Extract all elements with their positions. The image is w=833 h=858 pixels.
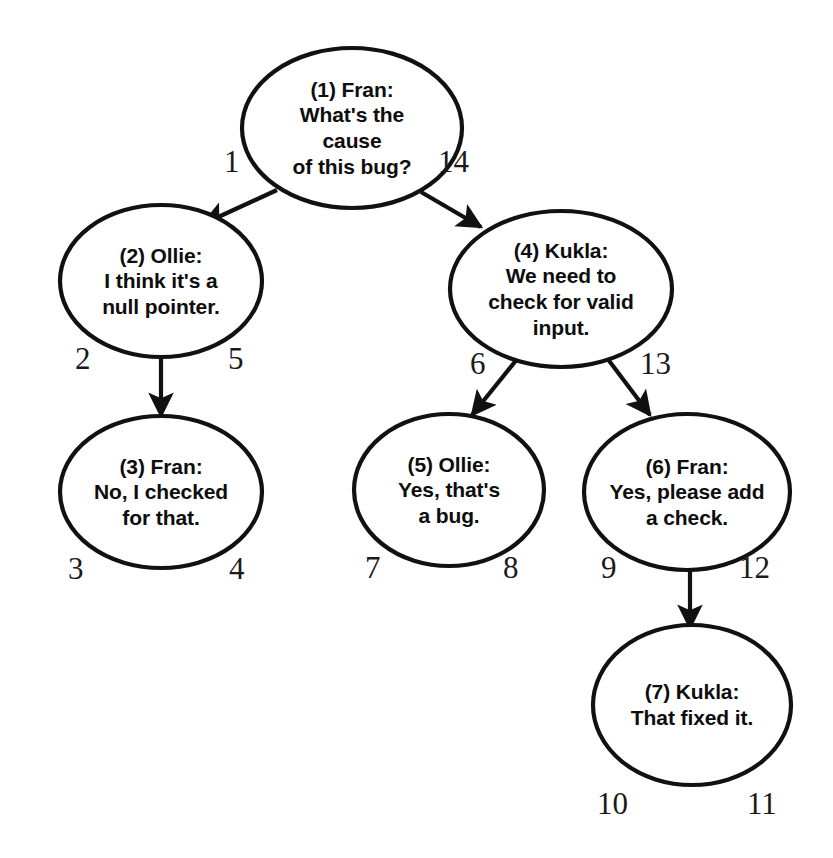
node-ellipse-n1[interactable] (242, 48, 462, 208)
edge-number-4-lbl-4: 4 (229, 553, 245, 584)
node-ellipse-n7[interactable] (593, 625, 791, 785)
node-ellipse-n3[interactable] (60, 416, 262, 568)
diagram-canvas: (1) Fran: What's the cause of this bug?(… (0, 0, 833, 858)
edge-number-3-lbl-3: 3 (68, 553, 84, 584)
edge-number-7-lbl-7: 7 (365, 552, 381, 583)
edge-number-8-lbl-8: 8 (503, 552, 519, 583)
edge-number-1-lbl-1: 1 (224, 146, 240, 177)
node-ellipse-n4[interactable] (450, 211, 672, 367)
node-ellipse-n2[interactable] (60, 205, 262, 357)
edge-number-2-lbl-2: 2 (75, 343, 91, 374)
nodes-layer (60, 48, 791, 785)
node-ellipse-n6[interactable] (584, 414, 790, 570)
edge-number-10-lbl-10: 10 (597, 788, 628, 819)
edge-number-13-lbl-13: 13 (640, 348, 671, 379)
edge-number-14-lbl-14: 14 (438, 146, 469, 177)
edge-number-11-lbl-11: 11 (747, 788, 777, 819)
edge-arrow-n1-to-n4 (421, 192, 481, 227)
edge-number-9-lbl-9: 9 (601, 552, 617, 583)
edge-number-6-lbl-6: 6 (470, 348, 486, 379)
edge-number-5-lbl-5: 5 (228, 343, 244, 374)
edge-number-12-lbl-12: 12 (739, 552, 770, 583)
diagram-svg (0, 0, 833, 858)
node-ellipse-n5[interactable] (354, 414, 544, 566)
